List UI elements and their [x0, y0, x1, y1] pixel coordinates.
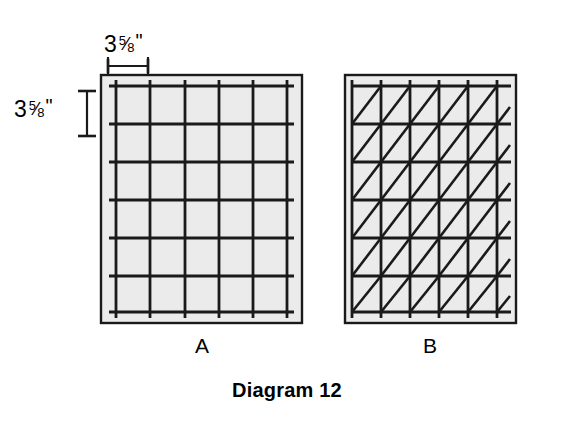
panel-caption-a: A	[182, 334, 222, 358]
panel-caption-b: B	[410, 334, 450, 358]
dimension-leader-left	[78, 91, 96, 136]
diagram-vector-layer	[0, 0, 574, 426]
panel-b	[345, 75, 516, 323]
diagram-canvas: 35⁄8" 35⁄8"	[0, 0, 574, 426]
panel-a	[101, 75, 302, 323]
dimension-leader-top	[108, 57, 148, 75]
figure-caption: Diagram 12	[0, 379, 574, 402]
